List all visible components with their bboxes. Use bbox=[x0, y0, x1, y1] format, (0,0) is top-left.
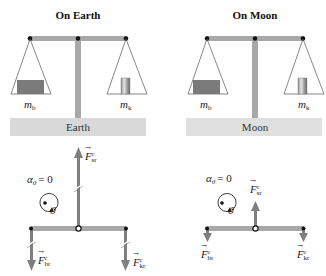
ground-label-moon: Moon bbox=[242, 121, 269, 133]
pivot-left bbox=[29, 227, 33, 231]
mass-label-k: mk bbox=[120, 98, 132, 112]
block-b bbox=[193, 80, 220, 94]
force-label-kr: Fckr bbox=[132, 256, 146, 270]
rotation-direction-icon: ϑ bbox=[40, 194, 58, 216]
angular-accel-label: αϑ= 0 bbox=[206, 172, 232, 186]
pivot-center bbox=[76, 226, 81, 231]
pivot-left bbox=[205, 36, 210, 41]
pivot-right bbox=[124, 36, 129, 41]
pivot-center bbox=[253, 36, 258, 41]
panel-title-earth: On Earth bbox=[56, 9, 101, 21]
vector-arrow-icon: → bbox=[250, 177, 256, 185]
balance-post bbox=[252, 38, 258, 118]
vector-arrow-icon: → bbox=[133, 250, 139, 258]
pivot-right bbox=[302, 227, 306, 231]
block-b bbox=[17, 80, 44, 94]
force-arrow-br bbox=[27, 229, 36, 271]
vector-arrow-icon: → bbox=[201, 242, 207, 250]
svg-text:ϑ: ϑ bbox=[50, 204, 56, 216]
rotation-direction-icon: ϑ bbox=[218, 194, 236, 216]
pivot-right bbox=[301, 36, 306, 41]
balance-diagram: On Earth Earth mb mk On Moon Moon mb bbox=[0, 0, 326, 276]
pivot-center bbox=[253, 226, 258, 231]
force-label-br: Fcbr bbox=[37, 254, 51, 268]
mass-label-k: mk bbox=[298, 98, 310, 112]
moon-balance-panel: On Moon Moon mb mk bbox=[186, 9, 324, 136]
balance-post bbox=[75, 38, 81, 118]
pivot-right bbox=[124, 227, 128, 231]
earth-free-body-diagram: αϑ= 0 ϑ Fcsr → Fcbr → bbox=[27, 144, 146, 271]
force-label-sr: Fcsr bbox=[84, 150, 97, 164]
panel-title-moon: On Moon bbox=[233, 9, 278, 21]
cylinder-k bbox=[298, 78, 307, 94]
mass-label-b: mb bbox=[24, 98, 36, 112]
force-arrow-sr bbox=[251, 201, 260, 228]
vector-arrow-icon: → bbox=[38, 248, 44, 256]
force-arrow-kr bbox=[121, 229, 130, 271]
vector-arrow-icon: → bbox=[85, 144, 91, 152]
ground-label-earth: Earth bbox=[66, 121, 90, 133]
pivot-center bbox=[76, 36, 81, 41]
earth-balance-panel: On Earth Earth mb mk bbox=[10, 9, 147, 136]
vector-arrow-icon: → bbox=[297, 242, 303, 250]
force-label-kr: Fckr bbox=[296, 248, 310, 262]
svg-text:ϑ: ϑ bbox=[228, 204, 234, 216]
pivot-left bbox=[28, 36, 33, 41]
force-label-br: Fcbr bbox=[200, 248, 214, 262]
moon-free-body-diagram: αϑ= 0 ϑ Fcsr → Fcbr → Fckr → bbox=[200, 172, 310, 262]
pivot-left bbox=[205, 227, 209, 231]
cylinder-k bbox=[121, 78, 130, 94]
force-label-sr: Fcsr bbox=[249, 183, 262, 197]
force-arrow-sr bbox=[74, 147, 83, 228]
mass-label-b: mb bbox=[200, 98, 212, 112]
angular-accel-label: αϑ= 0 bbox=[27, 173, 53, 187]
